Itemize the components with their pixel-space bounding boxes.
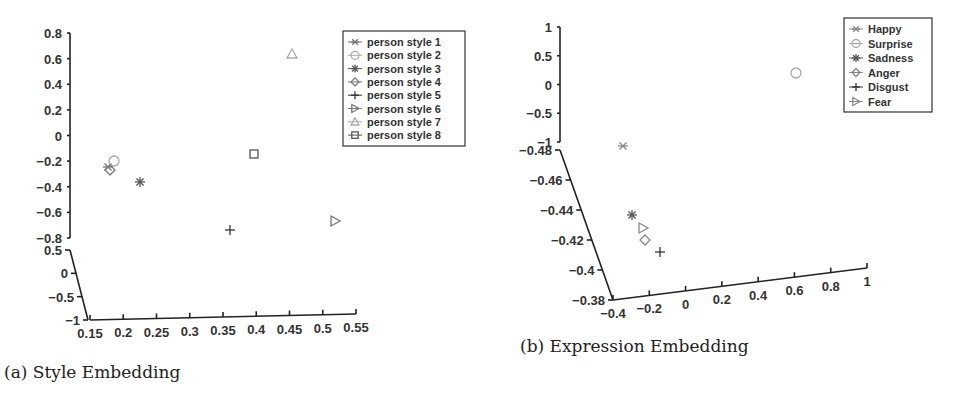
legend-entry-label: person style 8 <box>367 129 441 141</box>
caption-expression-embedding: (b) Expression Embedding <box>520 336 749 356</box>
tick-label: −0.6 <box>36 205 62 220</box>
tick-label: 0.4 <box>44 77 63 92</box>
figure-style-embedding: 0.80.60.40.20−0.2−0.4−0.6−0.80.50−0.5−10… <box>0 0 480 398</box>
legend-entry-label: person style 7 <box>367 116 441 128</box>
diamond-marker-icon <box>640 235 650 245</box>
tick-label: −0.44 <box>540 203 574 218</box>
legend-entry-label: person style 5 <box>367 89 441 101</box>
tick-label: −0.4 <box>600 306 626 321</box>
legend-entry-label: Sadness <box>868 52 913 64</box>
legend-entry-label: person style 3 <box>367 63 441 75</box>
caption-style-embedding: (a) Style Embedding <box>4 362 180 382</box>
tick-label: 0.5 <box>534 49 552 64</box>
tick-label: −0.4 <box>569 263 595 278</box>
tick-label: −0.2 <box>636 301 662 316</box>
triangle-right-marker-icon <box>331 216 340 226</box>
data-points <box>618 68 801 257</box>
legend-entry-label: Anger <box>868 67 901 79</box>
tick-label: 1 <box>545 20 552 35</box>
legend-entry-label: Disgust <box>868 81 909 93</box>
tick-label: 0.4 <box>247 322 266 337</box>
tick-label: 0.2 <box>713 292 731 307</box>
tick-label: −0.48 <box>519 143 552 158</box>
data-points <box>103 49 340 235</box>
tick-label: −0.5 <box>48 290 74 305</box>
circle-marker-icon <box>791 68 801 78</box>
tick-label: −0.2 <box>36 154 62 169</box>
tick-label: 0.4 <box>749 288 768 303</box>
circle-marker-icon <box>109 156 119 166</box>
legend-entry-label: Happy <box>868 23 903 35</box>
asterisk-marker-icon <box>852 54 860 62</box>
legend-entry-label: person style 2 <box>367 49 441 61</box>
legend-entry-label: person style 6 <box>367 103 441 115</box>
tick-label: 0.2 <box>114 325 132 340</box>
legend-entry-label: person style 4 <box>367 76 442 88</box>
tick-label: 0.5 <box>44 243 62 258</box>
legend-entry-label: Fear <box>868 96 892 108</box>
tick-label: 0.45 <box>277 322 302 337</box>
asterisk-marker-icon <box>135 177 145 187</box>
tick-label: 0 <box>61 266 68 281</box>
tick-label: 0.6 <box>44 52 62 67</box>
plus-marker-icon <box>655 247 665 257</box>
figure-expression-embedding: 10.50−0.5−1−0.48−0.46−0.44−0.42−0.4−0.38… <box>480 0 961 398</box>
tick-label: 0.8 <box>822 279 840 294</box>
tick-label: 0.5 <box>314 321 332 336</box>
tick-label: 0.55 <box>343 320 368 335</box>
tick-label: 0 <box>545 78 552 93</box>
tick-label: 0.15 <box>77 326 102 341</box>
tick-label: 0 <box>55 129 62 144</box>
legend-entry-label: Surprise <box>868 38 913 50</box>
legend: HappySurpriseSadnessAngerDisgustFear <box>844 18 932 112</box>
tick-label: 0.6 <box>785 283 803 298</box>
x-star-marker-icon <box>618 143 628 150</box>
tick-label: −0.4 <box>36 180 62 195</box>
asterisk-marker-icon <box>351 65 359 73</box>
triangle-right-marker-icon <box>639 223 648 233</box>
tick-label: 0 <box>682 297 689 312</box>
tick-label: −0.42 <box>551 233 584 248</box>
tick-label: 0.35 <box>210 323 235 338</box>
tick-label: 0.3 <box>181 324 199 339</box>
square-marker-icon <box>250 150 258 158</box>
tick-label: −0.5 <box>526 106 552 121</box>
y-axis-line <box>70 250 88 320</box>
plus-marker-icon <box>225 225 235 235</box>
legend-entry-label: person style 1 <box>367 36 441 48</box>
asterisk-marker-icon <box>627 210 637 220</box>
tick-label: 0.25 <box>144 325 169 340</box>
chart-style-embedding: 0.80.60.40.20−0.2−0.4−0.6−0.80.50−0.5−10… <box>0 0 480 398</box>
tick-label: 0.8 <box>44 26 62 41</box>
legend: person style 1person style 2person style… <box>343 31 465 146</box>
tick-label: −0.46 <box>530 173 563 188</box>
tick-label: 1 <box>863 274 870 289</box>
tick-label: 0.2 <box>44 103 62 118</box>
triangle-up-marker-icon <box>287 49 297 58</box>
